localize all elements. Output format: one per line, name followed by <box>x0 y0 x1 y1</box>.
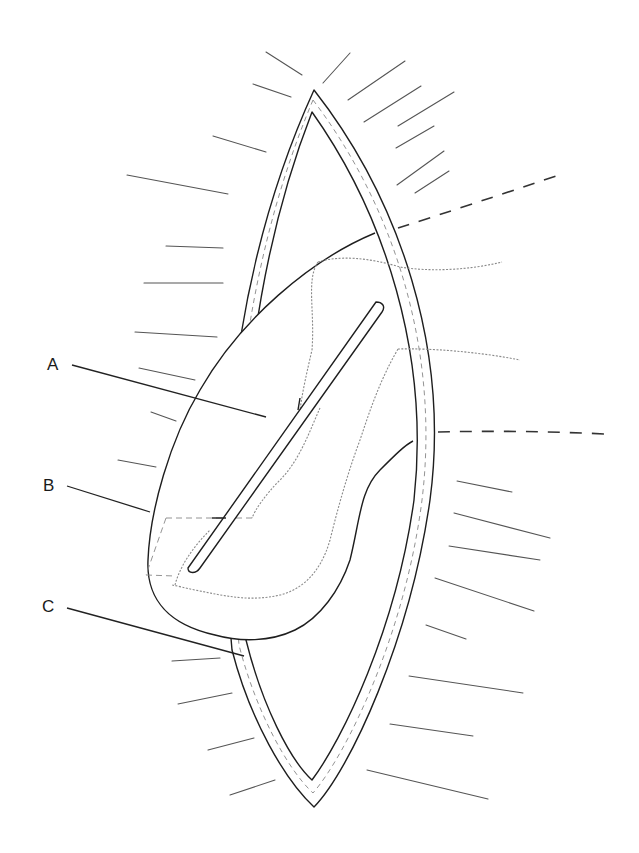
skin-flap <box>146 233 520 640</box>
label-b: B <box>43 477 54 494</box>
label-a: A <box>47 356 58 373</box>
surgical-flap-diagram: A B C <box>0 0 639 853</box>
illustration-svg <box>0 0 639 853</box>
label-c: C <box>42 598 54 615</box>
